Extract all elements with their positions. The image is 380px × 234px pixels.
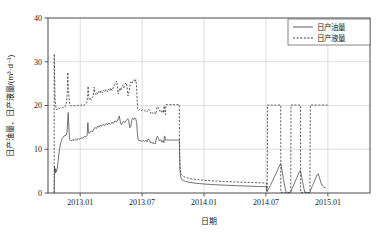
legend-label: 日产液量 xyxy=(317,33,346,43)
x-tick-label: 2014.01 xyxy=(191,198,217,207)
y-axis-title: 日产油量、日产液量/(m³·d⁻¹) xyxy=(5,54,15,157)
chart-container: 010203040 2013.012013.072014.012014.0720… xyxy=(0,0,380,234)
x-tick-label: 2013.01 xyxy=(67,198,93,207)
y-tick-label: 0 xyxy=(38,189,42,198)
x-tick-label: 2014.07 xyxy=(253,198,279,207)
chart-legend: 日产油量日产液量 xyxy=(288,19,370,45)
legend-label: 日产油量 xyxy=(317,22,346,32)
x-tick-label: 2013.07 xyxy=(129,198,155,207)
x-tick-label: 2015.01 xyxy=(315,198,341,207)
y-tick-label: 40 xyxy=(34,14,42,23)
y-tick-label: 30 xyxy=(34,58,42,67)
y-tick-label: 20 xyxy=(34,101,42,110)
daily-oil-liquid-production-chart: 010203040 2013.012013.072014.012014.0720… xyxy=(0,0,380,234)
y-tick-label: 10 xyxy=(34,145,42,154)
x-axis-title: 日期 xyxy=(201,217,217,226)
